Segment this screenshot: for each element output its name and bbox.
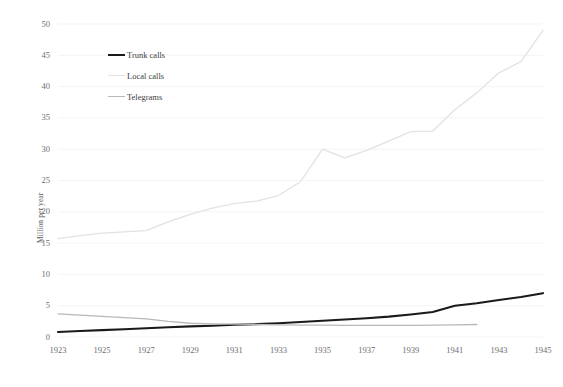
legend-item-telegrams: Telegrams — [108, 86, 228, 107]
legend-swatch-telegrams — [108, 96, 125, 97]
legend-swatch-local-calls — [108, 75, 125, 76]
legend-label-trunk-calls: Trunk calls — [127, 50, 165, 60]
plot-area — [0, 0, 563, 387]
legend: Trunk calls Local calls Telegrams — [108, 44, 228, 107]
legend-label-telegrams: Telegrams — [127, 92, 162, 102]
legend-item-local-calls: Local calls — [108, 65, 228, 86]
series-line-trunk-calls — [58, 293, 543, 332]
legend-item-trunk-calls: Trunk calls — [108, 44, 228, 65]
legend-swatch-trunk-calls — [108, 54, 125, 56]
legend-label-local-calls: Local calls — [127, 71, 164, 81]
line-chart: Million per year 05101520253035404550 19… — [0, 0, 563, 387]
